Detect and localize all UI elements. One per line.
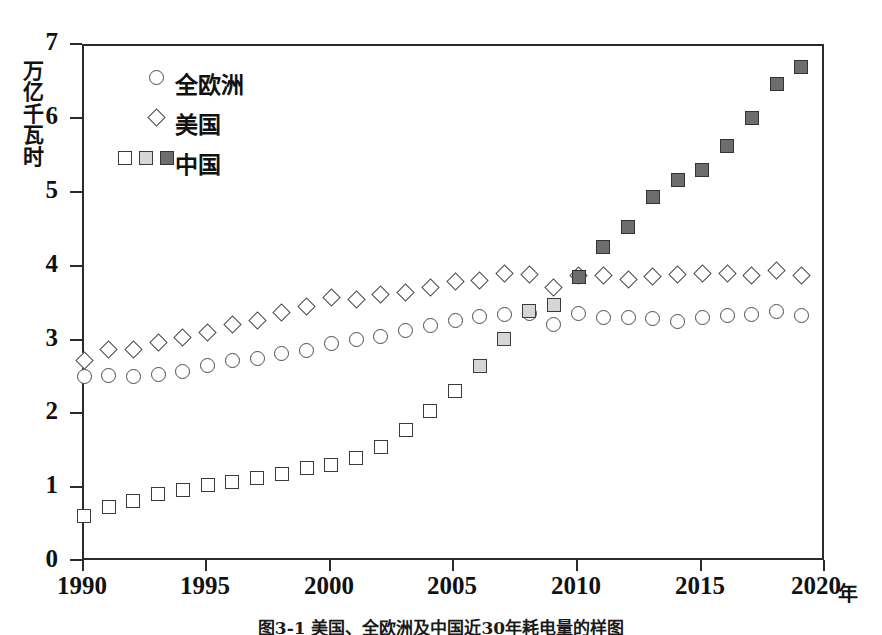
legend-label-usa: 美国 (175, 106, 221, 140)
data-point-square (77, 509, 91, 523)
data-point-diamond (198, 323, 216, 341)
data-point-circle (126, 369, 141, 384)
data-point-diamond (223, 315, 241, 333)
data-point-diamond (767, 262, 785, 280)
data-point-diamond (396, 283, 414, 301)
data-point-square (399, 423, 413, 437)
data-point-square (448, 384, 462, 398)
y-tick-label-2: 2 (24, 397, 58, 425)
x-tick-mark (700, 560, 702, 571)
data-point-square (176, 483, 190, 497)
y-tick-label-1: 1 (24, 471, 58, 499)
data-point-square (497, 332, 511, 346)
data-point-square (720, 139, 734, 153)
data-point-diamond (100, 340, 118, 358)
y-unit-char: 亿 (18, 81, 48, 102)
figure: 万 亿 千 瓦 时 7 6 5 4 3 2 1 0 1990 1995 2000… (0, 0, 882, 635)
data-point-square (423, 404, 437, 418)
data-point-diamond (248, 312, 266, 330)
y-tick-label-3: 3 (24, 324, 58, 352)
data-point-square (349, 451, 363, 465)
legend-label-europe: 全欧洲 (175, 66, 244, 100)
data-point-diamond (545, 279, 563, 297)
data-point-circle (423, 318, 438, 333)
y-tick-mark (70, 559, 82, 561)
data-point-circle (794, 308, 809, 323)
data-point-diamond (495, 264, 513, 282)
x-tick-mark (205, 560, 207, 571)
data-point-circle (472, 309, 487, 324)
data-point-diamond (619, 270, 637, 288)
data-point-diamond (75, 351, 93, 369)
data-point-square (621, 220, 635, 234)
square-light-marker-icon (139, 151, 153, 165)
y-tick-label-5: 5 (24, 176, 58, 204)
data-point-circle (448, 313, 463, 328)
data-point-square (572, 270, 586, 284)
data-point-diamond (322, 288, 340, 306)
data-point-square (151, 487, 165, 501)
y-tick-mark (70, 339, 82, 341)
data-point-square (695, 163, 709, 177)
data-point-diamond (372, 285, 390, 303)
legend-item-china: 中国 (100, 144, 320, 184)
x-tick-label-2005: 2005 (407, 572, 497, 600)
data-point-diamond (792, 267, 810, 285)
x-tick-mark (576, 560, 578, 571)
data-point-diamond (421, 279, 439, 297)
y-unit-char: 万 (18, 60, 48, 81)
data-point-circle (101, 368, 116, 383)
data-point-square (300, 461, 314, 475)
y-tick-mark (70, 191, 82, 193)
data-point-circle (670, 314, 685, 329)
x-tick-label-2010: 2010 (531, 572, 621, 600)
diamond-marker-icon (147, 108, 165, 126)
y-unit-char: 时 (18, 146, 48, 167)
data-point-circle (151, 367, 166, 382)
y-tick-label-4: 4 (24, 250, 58, 278)
legend-item-usa: 美国 (100, 104, 320, 144)
x-tick-mark (329, 560, 331, 571)
data-point-circle (744, 307, 759, 322)
data-point-circle (299, 343, 314, 358)
x-tick-label-1995: 1995 (160, 572, 250, 600)
data-point-square (275, 467, 289, 481)
data-point-circle (349, 332, 364, 347)
data-point-square (102, 500, 116, 514)
data-point-circle (621, 310, 636, 325)
y-tick-mark (70, 412, 82, 414)
data-point-diamond (174, 329, 192, 347)
data-point-circle (497, 307, 512, 322)
data-point-circle (695, 310, 710, 325)
data-point-diamond (124, 340, 142, 358)
data-point-circle (546, 317, 561, 332)
data-point-square (671, 173, 685, 187)
legend: 全欧洲 美国 中国 (100, 64, 320, 184)
data-point-diamond (297, 298, 315, 316)
data-point-square (374, 440, 388, 454)
data-point-diamond (644, 268, 662, 286)
figure-caption: 图3-1 美国、全欧洲及中国近30年耗电量的样图 (0, 614, 882, 635)
data-point-circle (596, 310, 611, 325)
y-tick-mark (70, 265, 82, 267)
data-point-square (126, 494, 140, 508)
data-point-square (225, 475, 239, 489)
x-tick-label-1990: 1990 (37, 572, 127, 600)
data-point-circle (398, 323, 413, 338)
data-point-diamond (594, 267, 612, 285)
data-point-circle (175, 364, 190, 379)
legend-label-china: 中国 (175, 146, 221, 180)
y-tick-label-7: 7 (24, 28, 58, 56)
data-point-circle (571, 306, 586, 321)
data-point-diamond (693, 265, 711, 283)
x-tick-mark (452, 560, 454, 571)
data-point-circle (225, 353, 240, 368)
data-point-circle (373, 329, 388, 344)
y-tick-mark (70, 486, 82, 488)
y-tick-label-6: 6 (24, 102, 58, 130)
data-point-diamond (520, 265, 538, 283)
x-tick-mark (82, 560, 84, 571)
data-point-square (473, 359, 487, 373)
y-tick-label-0: 0 (24, 545, 58, 573)
data-point-diamond (273, 303, 291, 321)
